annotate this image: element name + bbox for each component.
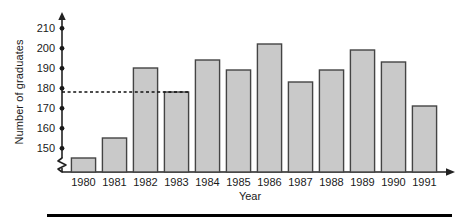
bar-1986 [257, 44, 281, 172]
y-tick-label: 210 [37, 22, 55, 34]
y-tick-mark [60, 46, 65, 51]
y-tick-label: 200 [37, 42, 55, 54]
bar-1990 [381, 62, 405, 172]
bar-1983 [164, 92, 188, 172]
chart-svg: 150 160 170 180 190 200 210 198019811982… [0, 0, 467, 210]
y-tick-label: 160 [37, 122, 55, 134]
bar-1984 [195, 60, 219, 172]
bar-1991 [412, 106, 436, 172]
x-tick-label-1988: 1988 [319, 176, 343, 188]
bar-1981 [102, 138, 126, 172]
y-tick-mark [60, 146, 65, 151]
y-tick-label: 190 [37, 62, 55, 74]
bar-chart-figure: Number of graduates [0, 0, 467, 223]
x-tick-label-1989: 1989 [350, 176, 374, 188]
bar-1989 [350, 50, 374, 172]
x-tick-label-1986: 1986 [257, 176, 281, 188]
y-tick-mark [60, 66, 65, 71]
x-tick-label-1980: 1980 [71, 176, 95, 188]
bar-1988 [319, 70, 343, 172]
y-tick-labels: 150 160 170 180 190 200 210 [37, 22, 55, 154]
chart-plot-area: Number of graduates [0, 0, 467, 210]
y-tick-mark [60, 26, 65, 31]
x-tick-label-1985: 1985 [226, 176, 250, 188]
x-tick-label-1981: 1981 [102, 176, 126, 188]
bar-1987 [288, 82, 312, 172]
y-tick-label: 150 [37, 142, 55, 154]
x-axis-label: Year [239, 190, 262, 202]
footer-rule [47, 214, 452, 217]
y-tick-mark [60, 106, 65, 111]
x-tick-labels: 1980198119821983198419851986198719881989… [71, 176, 436, 188]
x-tick-label-1983: 1983 [164, 176, 188, 188]
x-tick-label-1990: 1990 [381, 176, 405, 188]
x-tick-label-1982: 1982 [133, 176, 157, 188]
y-axis-arrow-icon [58, 12, 65, 20]
y-tick-mark [60, 126, 65, 131]
bar-series [71, 44, 436, 172]
bar-1985 [226, 70, 250, 172]
y-tick-label: 180 [37, 82, 55, 94]
x-tick-label-1991: 1991 [412, 176, 436, 188]
x-tick-label-1984: 1984 [195, 176, 219, 188]
x-tick-label-1987: 1987 [288, 176, 312, 188]
bar-1982 [133, 68, 157, 172]
y-tick-label: 170 [37, 102, 55, 114]
x-axis-arrow-icon [446, 168, 455, 175]
y-tick-mark [60, 86, 65, 91]
bar-1980 [71, 158, 95, 172]
